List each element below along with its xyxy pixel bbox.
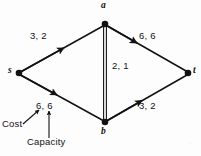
node-t[interactable]	[185, 70, 192, 77]
edge-label-a-t: 6, 6	[139, 31, 156, 41]
edge-a-b	[104, 24, 107, 121]
edge-s-b	[21, 75, 105, 121]
flow-network-figure: s a b t 3, 2 6, 6 2, 1 6, 6 3, 2 Cost Ca…	[0, 0, 201, 156]
annotation-arrow-cost	[23, 110, 39, 124]
node-label-s: s	[8, 66, 12, 76]
edge-label-b-t: 3, 2	[139, 101, 156, 111]
edge-label-a-b: 2, 1	[112, 61, 129, 71]
edge-b-t	[107, 75, 188, 121]
annotation-label-cost: Cost	[2, 119, 22, 129]
edge-label-s-b: 6, 6	[36, 101, 53, 111]
edge-label-s-a: 3, 2	[30, 31, 47, 41]
node-s[interactable]	[16, 70, 23, 77]
node-label-t: t	[193, 66, 196, 76]
annotation-label-capacity: Capacity	[27, 137, 66, 147]
node-a[interactable]	[102, 21, 109, 28]
node-b[interactable]	[102, 119, 109, 126]
node-label-b: b	[101, 127, 106, 137]
node-label-a: a	[101, 1, 106, 11]
